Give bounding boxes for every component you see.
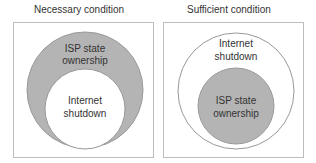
- venn-diagram: ISP state ownership Internet shutdown In…: [0, 0, 316, 163]
- necessary-inner-label-1: Internet: [68, 95, 102, 106]
- necessary-outer-label-1: ISP state: [65, 43, 106, 54]
- sufficient-inner-label-2: ownership: [213, 108, 259, 119]
- necessary-outer-label-2: ownership: [62, 55, 108, 66]
- sufficient-outer-label-2: shutdown: [215, 51, 258, 62]
- sufficient-outer-label-1: Internet: [219, 38, 253, 49]
- necessary-inner-label-2: shutdown: [64, 108, 107, 119]
- sufficient-inner-circle: [198, 68, 274, 144]
- sufficient-inner-label-1: ISP state: [216, 95, 257, 106]
